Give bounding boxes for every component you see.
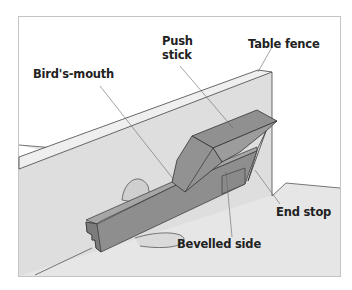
label-bevelled-side: Bevelled side — [177, 238, 261, 251]
label-end-stop: End stop — [276, 206, 331, 219]
label-push-stick-line1: Push — [162, 35, 193, 48]
label-push-stick-line2: stick — [162, 49, 192, 62]
label-birds-mouth: Bird's-mouth — [33, 68, 114, 81]
label-table-fence: Table fence — [248, 38, 320, 51]
